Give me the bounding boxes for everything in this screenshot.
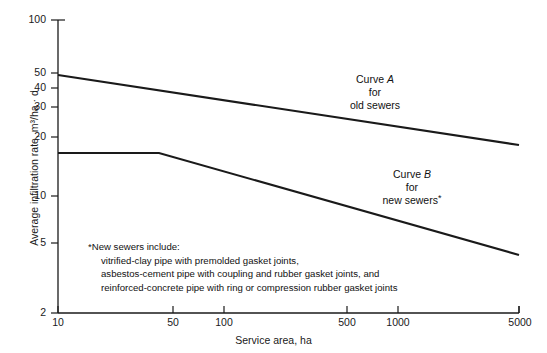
x-tick-label-50: 50	[153, 317, 193, 328]
curve-a-line	[58, 75, 519, 145]
footnote-marker: *	[438, 193, 442, 203]
footnote-line-3: reinforced-concrete pipe with ring or co…	[88, 281, 397, 295]
footnote-line-1: vitrified-clay pipe with premolded gaske…	[88, 254, 397, 268]
x-tick-label-5000: 5000	[500, 317, 540, 328]
footnote-line-2: asbestos-cement pipe with coupling and r…	[88, 267, 397, 281]
curve-b-label-letter: B	[424, 168, 431, 180]
curve-a-label-letter: A	[387, 73, 394, 85]
y-tick-label-2: 2	[10, 307, 46, 318]
curve-a-label-line3: old sewers	[305, 99, 445, 112]
curve-b-label-line3: new sewers*	[342, 194, 482, 207]
footnote-heading: *New sewers include:	[88, 240, 397, 254]
x-axis-title: Service area, ha	[0, 334, 547, 346]
x-tick-label-10: 10	[38, 317, 78, 328]
curve-b-label-word: Curve	[393, 168, 421, 180]
x-tick-label-1000: 1000	[378, 317, 418, 328]
y-axis-title: Average infiltration rate, m³/ha · d	[28, 58, 40, 278]
curve-b-label: Curve B for new sewers*	[342, 168, 482, 206]
x-axis-ticks	[58, 306, 519, 313]
x-tick-label-500: 500	[327, 317, 367, 328]
curve-b-label-line1: Curve B	[342, 168, 482, 181]
curve-a-label: Curve A for old sewers	[305, 73, 445, 111]
y-axis-ticks	[51, 20, 58, 313]
x-tick-label-100: 100	[204, 317, 244, 328]
curve-a-label-line2: for	[305, 86, 445, 99]
footnote-block: *New sewers include: vitrified-clay pipe…	[88, 240, 397, 294]
y-tick-label-100: 100	[10, 14, 46, 25]
figure-container: 100 50 40 30 20 10 5 2 10 50 100 500 100…	[0, 0, 547, 353]
curve-b-label-line2: for	[342, 181, 482, 194]
curve-a-label-word: Curve	[356, 73, 384, 85]
curve-b-label-text: new sewers	[383, 194, 438, 206]
curve-a-label-line1: Curve A	[305, 73, 445, 86]
